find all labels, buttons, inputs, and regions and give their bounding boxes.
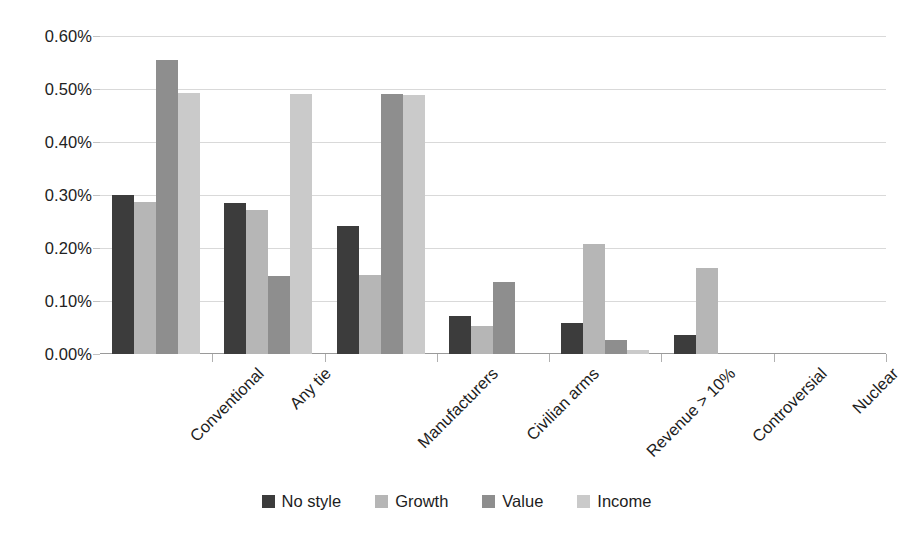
legend-item: Growth: [375, 492, 448, 511]
bar-chart: 0.60%0.50%0.40%0.30%0.20%0.10%0.00% Conv…: [0, 0, 913, 544]
chart-legend: No styleGrowthValueIncome: [0, 492, 913, 511]
y-axis-tick-label: 0.60%: [6, 27, 92, 46]
bar: [112, 195, 134, 354]
bar-group: [786, 36, 874, 354]
x-axis-tick-label: Revenue > 10%: [642, 364, 739, 461]
y-axis-tick-label: 0.00%: [6, 345, 92, 364]
legend-label: No style: [282, 492, 342, 511]
y-axis-tick-label: 0.50%: [6, 80, 92, 99]
bar: [134, 202, 156, 354]
y-axis: 0.60%0.50%0.40%0.30%0.20%0.10%0.00%: [0, 36, 92, 354]
x-axis-tick-mark: [212, 354, 213, 362]
legend-item: Income: [577, 492, 651, 511]
legend-swatch-icon: [375, 495, 388, 508]
bar: [156, 60, 178, 354]
bar: [337, 226, 359, 354]
legend-label: Growth: [395, 492, 448, 511]
bar: [268, 276, 290, 354]
y-axis-tick-label: 0.10%: [6, 292, 92, 311]
y-axis-tick-mark: [93, 36, 100, 37]
bar: [493, 282, 515, 354]
y-axis-tick-mark: [93, 142, 100, 143]
x-axis-tick-mark: [325, 354, 326, 362]
x-axis-tick-mark: [437, 354, 438, 362]
legend-swatch-icon: [262, 495, 275, 508]
x-axis-tick-mark: [661, 354, 662, 362]
y-axis-tick-label: 0.40%: [6, 133, 92, 152]
bar: [696, 268, 718, 354]
y-axis-tick-mark: [93, 195, 100, 196]
x-axis-tick-mark: [549, 354, 550, 362]
x-axis-tick-label: Controversial: [748, 364, 830, 446]
bar: [403, 95, 425, 354]
x-axis-tick-label: Civilian arms: [523, 364, 603, 444]
bar: [583, 244, 605, 354]
bar: [674, 335, 696, 354]
legend-item: No style: [262, 492, 342, 511]
bar-group: [337, 36, 425, 354]
bar-group: [449, 36, 537, 354]
bar: [246, 210, 268, 354]
y-axis-tick-mark: [93, 301, 100, 302]
bar: [627, 350, 649, 354]
x-axis-tick-label: Any tie: [285, 364, 334, 413]
legend-label: Value: [502, 492, 543, 511]
legend-label: Income: [597, 492, 651, 511]
bar: [290, 94, 312, 354]
y-axis-tick-mark: [93, 89, 100, 90]
y-axis-tick-mark: [93, 354, 100, 355]
x-axis-tick-label: Nuclear: [849, 364, 903, 418]
bar-group: [112, 36, 200, 354]
legend-swatch-icon: [577, 495, 590, 508]
bar: [224, 203, 246, 354]
plot-area: [100, 36, 886, 354]
bar: [561, 323, 583, 354]
legend-item: Value: [482, 492, 543, 511]
x-axis-tick-mark: [774, 354, 775, 362]
bar: [605, 340, 627, 354]
bar-group: [561, 36, 649, 354]
bar-group: [224, 36, 312, 354]
legend-swatch-icon: [482, 495, 495, 508]
bar: [471, 326, 493, 354]
x-axis-tick-mark: [886, 354, 887, 362]
y-axis-tick-label: 0.30%: [6, 186, 92, 205]
x-axis-tick-label: Manufacturers: [414, 364, 502, 452]
x-axis-tick-label: Conventional: [187, 364, 269, 446]
bar: [359, 275, 381, 355]
y-axis-tick-mark: [93, 248, 100, 249]
bar: [449, 316, 471, 354]
y-axis-tick-label: 0.20%: [6, 239, 92, 258]
bar: [381, 94, 403, 354]
bar: [178, 93, 200, 354]
bar-group: [674, 36, 762, 354]
